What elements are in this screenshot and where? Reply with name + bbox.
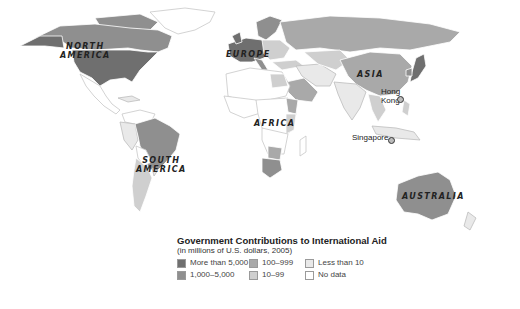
egypt (270, 74, 288, 88)
legend-item-1000-5000: 1,000–5,000 (177, 270, 249, 280)
legend-item-no-data: No data (305, 270, 385, 280)
legend-label: No data (318, 270, 346, 280)
legend-item-10-99: 10–99 (249, 270, 305, 280)
legend-subtitle: (in millions of U.S. dollars, 2005) (177, 246, 397, 255)
swatch-icon (249, 271, 258, 280)
region-label-north-america: NORTH AMERICA (60, 42, 111, 60)
russia (280, 16, 460, 52)
new-zealand (464, 212, 476, 230)
legend-item-less-than-10: Less than 10 (305, 258, 385, 268)
city-label-singapore: Singapore (352, 133, 388, 142)
greenland (150, 8, 215, 34)
region-label-europe: EUROPE (226, 50, 271, 59)
legend-title: Government Contributions to Internationa… (177, 235, 397, 246)
india (334, 82, 366, 120)
swatch-icon (249, 259, 258, 268)
alaska (20, 36, 64, 48)
scandinavia (256, 16, 282, 40)
south-africa (262, 158, 282, 178)
legend-grid: More than 5,000 100–999 Less than 10 1,0… (177, 258, 397, 280)
map-legend: Government Contributions to Internationa… (177, 235, 397, 280)
ethiopia (286, 98, 298, 114)
swatch-icon (177, 271, 186, 280)
region-label-south-america: SOUTH AMERICA (136, 156, 187, 174)
legend-label: 1,000–5,000 (190, 270, 235, 280)
legend-label: More than 5,000 (190, 258, 248, 268)
region-label-australia: AUSTRALIA (402, 192, 465, 201)
region-label-africa: AFRICA (254, 119, 295, 128)
italy (254, 58, 268, 70)
north-america-line2: AMERICA (60, 51, 111, 60)
swatch-icon (305, 271, 314, 280)
legend-item-more-than-5000: More than 5,000 (177, 258, 249, 268)
legend-label: 10–99 (262, 270, 284, 280)
hong-kong-line1: Hong (381, 87, 400, 96)
philippines (402, 100, 410, 116)
madagascar (300, 136, 306, 156)
caribbean (118, 96, 140, 102)
legend-label: Less than 10 (318, 258, 364, 268)
botswana-zimbabwe (268, 146, 282, 160)
hong-kong-marker (397, 96, 404, 103)
south-america-line1: SOUTH (136, 156, 187, 165)
singapore-marker (388, 137, 395, 144)
region-label-asia: ASIA (357, 70, 384, 79)
legend-label: 100–999 (262, 258, 293, 268)
legend-item-100-999: 100–999 (249, 258, 305, 268)
swatch-icon (177, 259, 186, 268)
swatch-icon (305, 259, 314, 268)
north-america-line1: NORTH (60, 42, 111, 51)
south-america-line2: AMERICA (136, 165, 187, 174)
